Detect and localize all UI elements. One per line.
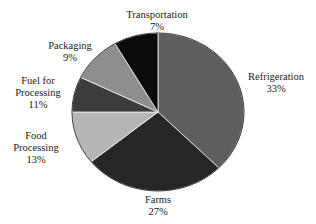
label-packaging: Packaging 9% — [40, 40, 100, 64]
label-transportation: Transportation 7% — [112, 9, 202, 33]
label-farms: Farms 27% — [130, 194, 186, 218]
label-refrigeration: Refrigeration 33% — [238, 71, 314, 95]
label-food-processing: Food Processing 13% — [6, 130, 66, 166]
label-fuel-for-processing: Fuel for Processing 11% — [8, 75, 68, 111]
pie-chart — [0, 0, 316, 224]
